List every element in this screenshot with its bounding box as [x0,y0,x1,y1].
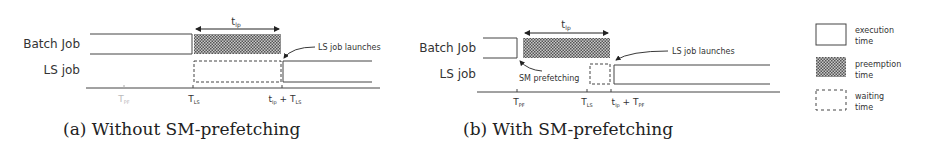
legend-waiting-label-2: time [855,103,873,112]
legend: execution time preemption time waiting t… [816,24,901,112]
legend-execution-swatch [816,24,846,45]
batch-execution-bar [483,38,517,58]
legend-execution-label-2: time [855,37,873,46]
batch-execution-bar [90,34,192,54]
launch-annotation-arrow [284,47,315,58]
row-label-ls: LS job [44,63,80,77]
ls-waiting-bar [590,64,610,84]
legend-preemption-swatch [816,57,846,77]
prefetch-annotation: SM prefetching [519,74,579,83]
row-label-batch: Batch Job [23,37,80,51]
legend-waiting-swatch [816,90,846,110]
tick-label-tlp-plus-tpf: tlp + TPF [612,97,645,109]
legend-waiting-label: waiting [855,92,884,101]
panel-b: Batch Job LS job tlp SM prefetching LS j… [419,19,780,139]
row-label-batch: Batch Job [419,41,476,55]
legend-preemption-label-2: time [855,71,873,80]
launch-annotation: LS job launches [318,43,381,52]
tick-label-t-pf: TPF [117,94,130,105]
ls-waiting-bar [194,61,281,82]
legend-preemption-label: preemption [855,60,901,69]
tick-label-tlp-plus-tls: tlp + TLS [269,94,302,106]
launch-annotation: LS job launches [672,47,735,56]
ls-execution-bar [283,61,372,82]
row-label-ls: LS job [440,67,476,81]
preemption-bar [523,38,610,58]
panel-a: Batch Job LS job tlp LS job launches TPF… [23,16,380,139]
ls-execution-bar [614,65,770,84]
tick-label-t-ls: TLS [580,97,592,108]
tick-label-t-ls: TLS [187,94,199,105]
legend-execution-label: execution [855,26,894,35]
tick-label-t-pf: TPF [512,97,525,108]
figure: Batch Job LS job tlp LS job launches TPF… [0,0,930,163]
preemption-bar [194,34,281,54]
interval-label: tlp [561,19,571,32]
interval-label: tlp [231,16,241,29]
launch-annotation-arrow [616,51,668,60]
caption-a: (a) Without SM-prefetching [63,119,301,139]
caption-b: (b) With SM-prefetching [463,119,673,139]
prefetch-annotation-arrow [520,61,542,71]
